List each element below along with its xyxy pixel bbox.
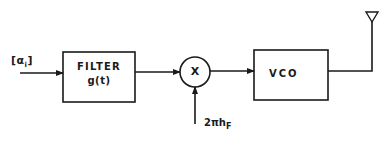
vco-label: VCO	[269, 69, 299, 79]
multiplier-x: X	[191, 65, 199, 78]
input-symbol-close: ]	[28, 54, 34, 67]
input-symbol-text: [α	[11, 54, 25, 67]
filter-title: FILTER	[63, 62, 135, 72]
output-line	[328, 21, 372, 71]
input-symbol-label: [αi]	[11, 55, 33, 69]
antenna-icon	[366, 12, 378, 22]
modulation-index-label: 2πhF	[204, 118, 231, 131]
vco-text: VCO	[269, 68, 299, 79]
multiplier-symbol: X	[185, 66, 205, 77]
filter-impulse-response: g(t)	[63, 76, 135, 86]
modulation-index-text: 2πh	[204, 117, 226, 128]
modulation-index-subscript: F	[226, 122, 231, 131]
filter-label: FILTER g(t)	[63, 62, 135, 86]
